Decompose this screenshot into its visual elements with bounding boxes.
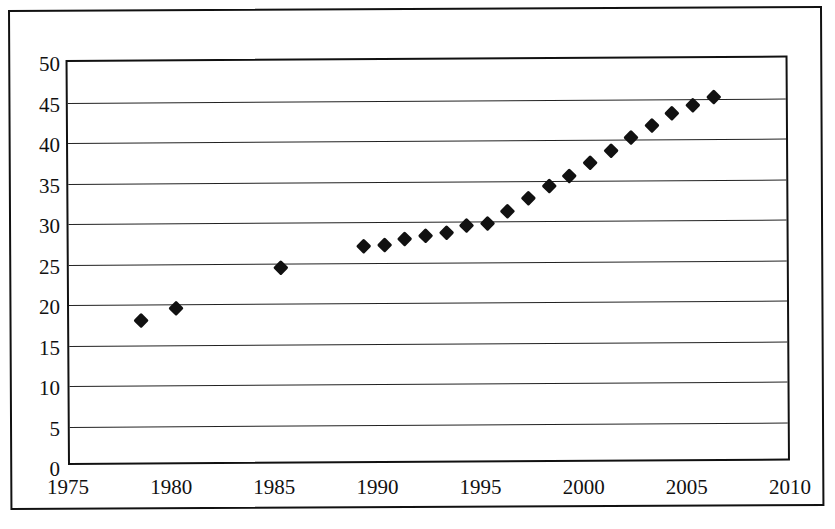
data-point [397, 231, 413, 247]
data-point [134, 313, 150, 329]
gridline-y-25 [69, 260, 787, 265]
data-point [664, 106, 680, 122]
gridline-y-40 [68, 139, 786, 144]
y-tick-label-30: 30 [16, 216, 60, 237]
x-tick-label-2010: 2010 [769, 477, 811, 498]
y-tick-label-40: 40 [16, 135, 60, 156]
data-point [376, 237, 392, 253]
y-axis: 05101520253035404550 [12, 60, 60, 465]
gridline-y-15 [69, 341, 787, 346]
gridline-y-10 [70, 382, 788, 387]
data-point [169, 301, 185, 317]
y-tick-label-25: 25 [16, 256, 60, 277]
gridline-layer [68, 58, 786, 62]
y-tick-label-10: 10 [16, 378, 60, 399]
y-tick-label-15: 15 [16, 337, 60, 358]
x-tick-label-1980: 1980 [150, 477, 192, 498]
gridline-y-20 [69, 301, 787, 306]
data-point [480, 215, 496, 231]
data-point [438, 224, 454, 240]
gridline-y-30 [69, 220, 787, 225]
y-tick-label-50: 50 [16, 54, 60, 75]
data-point [706, 89, 722, 105]
x-axis: 19751980198519901995200020052010 [68, 477, 790, 507]
scatter-chart-figure: 05101520253035404550 1975198019851990199… [0, 0, 835, 529]
data-point [500, 204, 516, 220]
gridline-y-35 [68, 179, 786, 184]
gridline-y-45 [68, 98, 786, 103]
data-point [418, 228, 434, 244]
y-tick-label-45: 45 [16, 94, 60, 115]
data-point [356, 239, 372, 255]
y-tick-label-5: 5 [16, 418, 60, 439]
data-point [459, 218, 475, 234]
y-tick-label-35: 35 [16, 175, 60, 196]
x-tick-label-1975: 1975 [47, 477, 89, 498]
y-tick-label-20: 20 [16, 297, 60, 318]
data-point [623, 130, 639, 146]
x-tick-label-2005: 2005 [666, 477, 708, 498]
x-tick-label-1985: 1985 [253, 477, 295, 498]
data-point [644, 118, 660, 134]
data-point [521, 191, 537, 207]
x-tick-label-1995: 1995 [460, 477, 502, 498]
x-tick-label-2000: 2000 [563, 477, 605, 498]
x-tick-label-1990: 1990 [356, 477, 398, 498]
plot-area [66, 56, 790, 465]
data-point [603, 143, 619, 159]
data-point [582, 155, 598, 171]
gridline-y-5 [70, 422, 788, 427]
